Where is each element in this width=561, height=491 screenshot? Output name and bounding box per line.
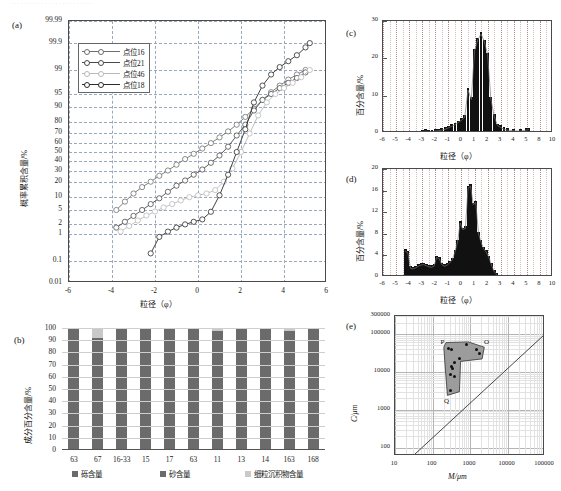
panel-e-x-tick: 10: [391, 459, 398, 466]
panel-c-x-tick: -3: [419, 135, 424, 142]
panel-a-y-axis-label: 概率累积含量/%: [18, 150, 29, 207]
panel-c-x-tick: 10: [549, 135, 556, 142]
panel-a-y-tick: 30: [55, 165, 63, 174]
panel-a-y-tick: 99.9: [49, 37, 62, 46]
panel-e-tag: (e): [346, 321, 356, 331]
panel-b-x-tick: 16-33: [113, 455, 131, 464]
panel-d-x-tick: 4: [511, 279, 514, 286]
panel-c-x-tick: 8: [537, 135, 540, 142]
panel-e-data-point: [449, 373, 452, 376]
panel-a-series-line: [121, 70, 310, 232]
gridline-vertical: [514, 21, 515, 132]
gridline-vertical: [409, 169, 410, 276]
gridline-vertical-minor: [507, 169, 508, 276]
panel-e-plot-area: [394, 315, 544, 455]
panel-a-data-marker: [234, 149, 239, 154]
gridline-vertical: [435, 21, 436, 132]
panel-a-data-marker: [307, 41, 312, 46]
panel-b-legend-item: 砂含量: [160, 468, 190, 479]
panel-e-point-label: Q: [444, 397, 449, 405]
panel-a-data-marker: [260, 83, 265, 88]
panel-e-y-tick: 10000: [374, 366, 390, 373]
panel-c-x-tick: 4: [511, 135, 514, 142]
tick-mark: [383, 255, 387, 256]
panel-a-data-marker: [294, 53, 299, 58]
panel-b-x-tick: 14: [261, 455, 269, 464]
panel-a-data-marker: [226, 172, 231, 177]
gridline-vertical-minor: [390, 21, 391, 132]
panel-b-y-tick: 100: [45, 323, 56, 332]
panel-d-bar: [495, 273, 498, 275]
panel-a-data-marker: [307, 67, 312, 72]
panel-a-y-tick: 0.1: [53, 255, 62, 264]
gridline-vertical-minor: [520, 21, 521, 132]
panel-c-plot-area: [382, 20, 552, 132]
gridline-vertical: [540, 21, 541, 132]
panel-a-data-marker: [165, 189, 170, 194]
panel-c-y-tick: 10: [372, 90, 379, 97]
panel-a-x-tick: -2: [151, 286, 157, 295]
gridline-vertical-minor: [429, 169, 430, 276]
gridline-horizontal: [62, 365, 325, 366]
panel-b-x-tick: 67: [94, 455, 102, 464]
panel-d-x-tick: -2: [432, 279, 437, 286]
panel-d-x-tick: -6: [379, 279, 384, 286]
panel-d-tag: (d): [346, 174, 357, 184]
panel-a-legend-item: 点位21: [82, 57, 145, 68]
panel-a-y-tick: 90: [55, 101, 63, 110]
panel-a-data-marker: [114, 225, 119, 230]
panel-a-x-tick: 4: [281, 286, 285, 295]
panel-a-y-tick: 40: [55, 155, 63, 164]
gridline-vertical-minor: [546, 21, 547, 132]
gridline-vertical: [396, 169, 397, 276]
gridline-horizontal: [62, 340, 325, 341]
panel-a-data-marker: [247, 131, 252, 136]
panel-d-y-tick: 20: [372, 163, 379, 170]
panel-d-y-tick: 16: [372, 185, 379, 192]
panel-c-x-tick: 5: [524, 135, 527, 142]
panel-a-data-marker: [299, 75, 304, 80]
panel-c-y-tick: 0: [375, 127, 378, 134]
gridline-horizontal: [62, 426, 325, 427]
panel-e-data-point: [453, 361, 456, 364]
panel-c-x-tick: -6: [379, 135, 384, 142]
gridline-vertical: [461, 21, 462, 132]
panel-d-x-tick: 5: [524, 279, 527, 286]
panel-a-data-marker: [122, 219, 127, 224]
panel-a-legend: 点位16点位21点位46点位18: [78, 43, 150, 93]
panel-a-data-marker: [148, 251, 153, 256]
panel-d-x-tick: 0: [459, 279, 462, 286]
panel-a-y-tick: 95: [55, 88, 63, 97]
panel-d-y-tick: 0: [375, 271, 378, 278]
panel-a-data-marker: [273, 91, 278, 96]
panel-a-data-marker: [174, 225, 179, 230]
panel-a-data-marker: [208, 209, 213, 214]
panel-d-plot-area: [382, 168, 552, 276]
panel-c-y-tick: 30: [372, 15, 379, 22]
panel-b-legend-swatch: [72, 471, 78, 477]
gridline-vertical: [422, 21, 423, 132]
panel-b-y-tick: 80: [49, 347, 57, 356]
gridline-vertical: [409, 21, 410, 132]
panel-a-data-marker: [174, 183, 179, 188]
panel-c-x-tick: 2: [485, 135, 488, 142]
gridline-vertical: [501, 169, 502, 276]
panel-a-data-marker: [187, 195, 192, 200]
panel-a-data-marker: [243, 114, 248, 119]
panel-a-legend-item: 点位46: [82, 68, 145, 79]
gridline-vertical-minor: [429, 21, 430, 132]
panel-c-x-tick: -5: [392, 135, 397, 142]
panel-a-data-marker: [204, 191, 209, 196]
panel-a-probability-plot: (a) 概率累积含量/% 粒径（φ） 点位16点位21点位46点位18 99.9…: [0, 12, 340, 312]
panel-a-legend-swatch: [82, 69, 120, 78]
panel-d-x-tick: 2: [485, 279, 488, 286]
gridline-vertical: [422, 169, 423, 276]
tick-mark: [383, 212, 387, 213]
panel-e-y-axis-label: C/μm: [350, 405, 359, 422]
panel-b-x-tick: 15: [142, 455, 150, 464]
panel-d-x-tick: -5: [392, 279, 397, 286]
panel-a-data-marker: [226, 144, 231, 149]
panel-a-data-marker: [157, 196, 162, 201]
panel-a-y-tick: 99.99: [45, 15, 62, 24]
panel-a-data-marker: [200, 146, 205, 151]
